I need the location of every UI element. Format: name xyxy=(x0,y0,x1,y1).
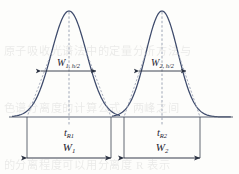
label-tr1-sub: R1 xyxy=(67,132,74,139)
label-w1-base: W xyxy=(63,141,72,153)
label-w2-sub: 2 xyxy=(165,147,168,154)
label-w2-half-height: W2, h/2 xyxy=(151,58,174,69)
label-w2-base: W xyxy=(156,141,165,153)
label-w1-half-sub: 1, h/2 xyxy=(65,62,80,69)
peak-curves xyxy=(12,11,231,117)
label-w2-half-sub: 2, h/2 xyxy=(159,62,174,69)
peak-2-right-tangent xyxy=(178,53,200,117)
label-w1: W1 xyxy=(63,142,76,155)
label-tr2: tR2 xyxy=(157,128,167,139)
base-width-drop-lines xyxy=(27,117,200,158)
peak-2-left-tangent xyxy=(124,53,146,117)
label-w2: W2 xyxy=(156,142,169,155)
label-w1-sub: 1 xyxy=(72,147,75,154)
label-tr2-sub: R2 xyxy=(160,132,167,139)
label-tr1: tR1 xyxy=(64,128,74,139)
retention-time-lines xyxy=(69,12,162,126)
figure-container: 原子吸收光谱法中的定量分析方法与 色谱分离度的计算公式，两峰之间 的分离程度可以… xyxy=(0,0,239,174)
label-w1-half-height: W1, h/2 xyxy=(57,58,80,69)
chromatogram-plot xyxy=(0,0,239,174)
tangent-construction-lines xyxy=(27,53,200,117)
